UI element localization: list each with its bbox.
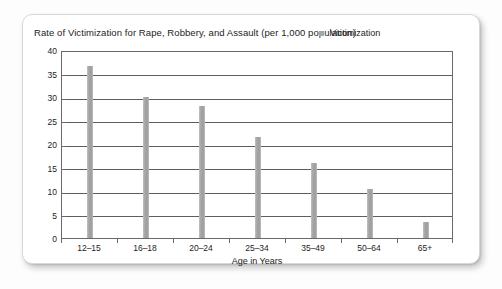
chart-title: Rate of Victimization for Rape, Robbery,… <box>34 27 356 38</box>
gridline <box>62 122 452 123</box>
y-axis-tickmark <box>62 193 66 194</box>
bar-65+ <box>423 222 429 238</box>
bar-16-18 <box>143 97 149 238</box>
legend-label-victimization: Victimization <box>330 28 380 38</box>
chart-card: Rate of Victimization for Rape, Robbery,… <box>22 14 480 264</box>
y-axis-tick-label: 30 <box>31 93 57 103</box>
y-axis-tickmark <box>62 169 66 170</box>
y-axis-tickmark <box>62 75 66 76</box>
x-axis-tick-label: 35–49 <box>301 243 325 253</box>
plot-area <box>61 51 453 239</box>
x-axis-labels: 12–1516–1820–2425–3435–4950–6465+ <box>61 243 453 257</box>
x-axis-tick-label: 20–24 <box>189 243 213 253</box>
chart-legend: Victimization <box>319 28 380 38</box>
y-axis-tick-label: 10 <box>31 187 57 197</box>
chart-screenshot: Rate of Victimization for Rape, Robbery,… <box>0 0 502 289</box>
y-axis-tickmark <box>62 99 66 100</box>
x-axis-tick-label: 50–64 <box>357 243 381 253</box>
y-axis-tick-label: 25 <box>31 117 57 127</box>
x-axis-title: Age in Years <box>61 256 453 266</box>
bar-50-64 <box>367 189 373 238</box>
legend-swatch-icon <box>319 31 324 36</box>
y-axis-tick-label: 20 <box>31 140 57 150</box>
y-axis-labels: 0510152025303540 <box>27 51 57 239</box>
y-axis-tickmark <box>62 146 66 147</box>
y-axis-tick-label: 40 <box>31 46 57 56</box>
x-axis-tick-label: 65+ <box>418 243 432 253</box>
y-axis-tick-label: 35 <box>31 70 57 80</box>
y-axis-tick-label: 0 <box>31 234 57 244</box>
y-axis-tickmark <box>62 216 66 217</box>
gridline <box>62 99 452 100</box>
bar-12-15 <box>87 66 93 238</box>
y-axis-tickmark <box>62 122 66 123</box>
bar-25-34 <box>255 137 261 238</box>
gridline <box>62 75 452 76</box>
y-axis-tick-label: 5 <box>31 211 57 221</box>
y-axis-tick-label: 15 <box>31 164 57 174</box>
bar-35-49 <box>311 163 317 238</box>
bar-20-24 <box>199 106 205 238</box>
x-axis-tick-label: 25–34 <box>245 243 269 253</box>
x-axis-tick-label: 16–18 <box>133 243 157 253</box>
x-axis-tick-label: 12–15 <box>77 243 101 253</box>
